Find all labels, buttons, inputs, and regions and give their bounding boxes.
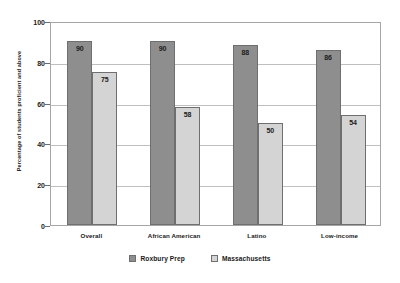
y-axis-title: Percentage of students proficient and ab… [16,26,22,196]
bar-value-label: 58 [176,111,199,118]
bar[interactable]: 50 [258,123,283,225]
legend-swatch-icon [211,255,218,262]
bar[interactable]: 90 [67,41,92,225]
y-axis-tick-label: 60 [0,100,45,107]
bar-value-label: 90 [151,45,174,52]
bar-value-label: 90 [68,45,91,52]
chart-legend: Roxbury PrepMassachusetts [0,255,400,262]
bar[interactable]: 58 [175,107,200,225]
x-axis-category-label: Low-income [298,232,381,239]
y-axis-tick-label: 80 [0,59,45,66]
bar-group: 9075 [67,23,117,225]
bar-group: 8850 [233,23,283,225]
bar[interactable]: 88 [233,45,258,225]
y-axis-tick-label: 0 [0,223,45,230]
legend-item[interactable]: Roxbury Prep [129,255,184,262]
x-axis-category-label: African American [133,232,216,239]
bar-value-label: 54 [342,119,365,126]
legend-label: Roxbury Prep [140,255,184,262]
bar[interactable]: 90 [150,41,175,225]
y-axis-tick-label: 20 [0,182,45,189]
bar[interactable]: 54 [341,115,366,225]
bar-group: 9058 [150,23,200,225]
bar-value-label: 86 [317,54,340,61]
legend-swatch-icon [129,255,136,262]
legend-label: Massachusetts [222,255,271,262]
bar-value-label: 75 [93,76,116,83]
y-axis-tick-label: 100 [0,19,45,26]
x-axis-category-label: Latino [216,232,299,239]
bar-group: 8654 [316,23,366,225]
bar-value-label: 50 [259,127,282,134]
y-axis-tick-mark [45,226,50,227]
chart-title [0,0,400,4]
bar[interactable]: 75 [92,72,117,225]
y-axis-tick-label: 40 [0,141,45,148]
bar-value-label: 88 [234,49,257,56]
x-axis-category-label: Overall [50,232,133,239]
bar[interactable]: 86 [316,50,341,225]
plot-area: 9075905888508654 [50,22,381,226]
legend-item[interactable]: Massachusetts [211,255,271,262]
